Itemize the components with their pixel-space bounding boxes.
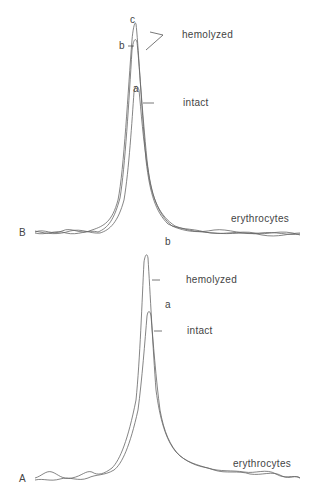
panel-b-hemolyzed-pointer-1 bbox=[150, 32, 163, 35]
panel-b-peak-label-b: b bbox=[119, 41, 125, 51]
panel-b-curve-c bbox=[35, 23, 300, 235]
panel-a-intact-label: intact bbox=[187, 326, 213, 336]
panel-b-label: B bbox=[19, 228, 26, 238]
panel-b-peak-label-a: a bbox=[133, 84, 139, 94]
panel-b-curve-b bbox=[35, 40, 300, 235]
panel-a-curve-a bbox=[35, 312, 300, 481]
panel-a-curve-b bbox=[35, 255, 300, 479]
panel-b-hemolyzed-pointer-2 bbox=[146, 35, 163, 50]
panel-a-peak-label-b: b bbox=[165, 237, 171, 247]
panel-b-hemolyzed-label: hemolyzed bbox=[182, 30, 233, 40]
panel-a-peak-label-a: a bbox=[165, 300, 171, 310]
panel-b-sample-label: erythrocytes bbox=[231, 214, 289, 224]
spectra-plot bbox=[0, 0, 331, 498]
panel-b-intact-label: intact bbox=[183, 98, 209, 108]
panel-b-peak-label-c: c bbox=[130, 15, 135, 25]
panel-a-sample-label: erythrocytes bbox=[233, 459, 291, 469]
spectra-figure: c b a hemolyzed intact erythrocytes B b … bbox=[0, 0, 331, 498]
panel-a-hemolyzed-label: hemolyzed bbox=[186, 275, 237, 285]
panel-a-label: A bbox=[19, 474, 26, 484]
